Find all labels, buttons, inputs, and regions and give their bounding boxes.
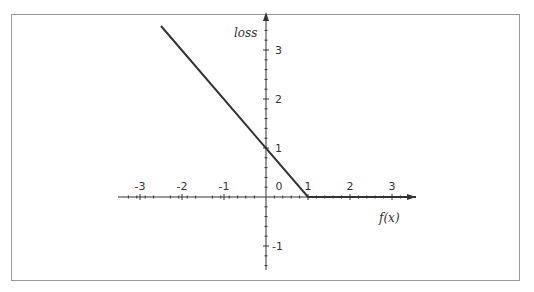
y-tick-label: 3 xyxy=(275,44,282,57)
y-tick-label: 2 xyxy=(275,93,282,106)
x-tick-label: -3 xyxy=(135,180,146,193)
y-tick-label: 1 xyxy=(275,142,282,155)
x-tick-label: 0 xyxy=(276,180,283,193)
hinge-loss-line xyxy=(161,26,416,197)
x-tick-label: 1 xyxy=(305,180,312,193)
x-tick-label: 3 xyxy=(389,180,396,193)
x-tick-label: 2 xyxy=(347,180,354,193)
x-tick-label: -2 xyxy=(177,180,188,193)
y-tick-label: -1 xyxy=(272,240,283,253)
x-tick-label: -1 xyxy=(219,180,230,193)
y-axis-arrow-icon xyxy=(263,12,269,21)
figure-caption-cropped xyxy=(12,287,155,292)
y-axis-title: loss xyxy=(234,26,257,40)
hinge-loss-chart: -3 -2 -1 0 1 2 3 3 2 1 -1 loss f(x) xyxy=(0,0,534,292)
x-axis-title: f(x) xyxy=(378,211,400,225)
